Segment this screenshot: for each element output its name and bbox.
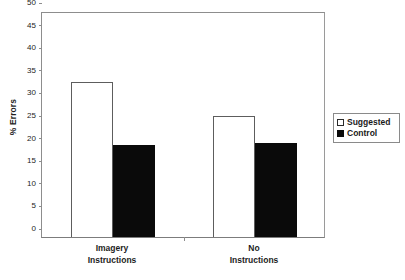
y-axis-tick: 35	[27, 67, 42, 75]
bar-suggested-no-instructions	[213, 116, 255, 237]
legend-item-control: Control	[337, 128, 395, 139]
y-axis-tick-label: 10	[27, 180, 39, 188]
y-axis-tick-label: 5	[32, 202, 39, 210]
bar-chart-figure: % Errors 05101520253035404550 ImageryIns…	[0, 0, 405, 280]
x-axis-label-line: Imagery	[41, 243, 183, 255]
legend-label-control: Control	[347, 129, 377, 138]
legend-label-suggested: Suggested	[347, 118, 390, 127]
bar-suggested-imagery-instructions	[71, 82, 113, 237]
y-axis-tick-label: 35	[27, 67, 39, 75]
x-axis-label-imagery-instructions: ImageryInstructions	[41, 243, 183, 266]
x-axis-label-line: No	[183, 243, 325, 255]
y-axis-tick: 10	[27, 180, 42, 188]
bar-control-no-instructions	[255, 143, 297, 237]
y-axis-tick-mark	[39, 3, 42, 4]
y-axis-tick: 40	[27, 44, 42, 52]
x-axis-category-divider	[184, 237, 185, 241]
x-axis-label-line: Instructions	[183, 255, 325, 267]
y-axis-tick-label: 25	[27, 112, 39, 120]
y-axis-tick: 45	[27, 22, 42, 30]
y-axis-tick-label: 40	[27, 44, 39, 52]
legend-item-suggested: Suggested	[337, 117, 395, 128]
y-axis-tick: 20	[27, 135, 42, 143]
y-axis-tick-label: 20	[27, 135, 39, 143]
y-axis-tick-label: 45	[27, 22, 39, 30]
y-axis-tick: 50	[27, 0, 42, 7]
y-axis-tick-label: 30	[27, 89, 39, 97]
bars-layer	[42, 13, 324, 237]
plot-area: 05101520253035404550	[41, 12, 325, 238]
y-axis-tick: 30	[27, 89, 42, 97]
y-axis-tick-label: 0	[32, 225, 39, 233]
bar-control-imagery-instructions	[113, 145, 155, 237]
chart-legend: Suggested Control	[333, 113, 400, 143]
y-axis-tick: 25	[27, 112, 42, 120]
filled-square-icon	[337, 130, 344, 137]
y-axis-tick: 15	[27, 157, 42, 165]
y-axis-tick: 5	[32, 202, 42, 210]
x-axis-label-no-instructions: NoInstructions	[183, 243, 325, 266]
y-axis-tick-label: 50	[27, 0, 39, 7]
hollow-square-icon	[337, 119, 344, 126]
y-axis-title: % Errors	[8, 82, 18, 152]
y-axis-tick: 0	[32, 225, 42, 233]
x-axis-label-line: Instructions	[41, 255, 183, 267]
y-axis-tick-label: 15	[27, 157, 39, 165]
